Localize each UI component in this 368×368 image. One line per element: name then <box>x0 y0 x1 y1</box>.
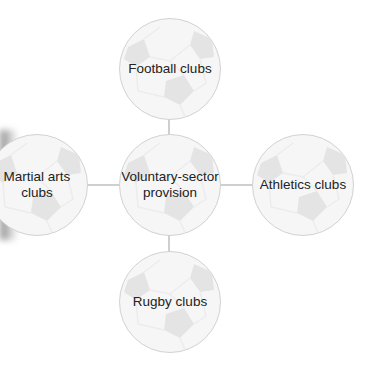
node-voluntary-sector-provision: Voluntary-sectorprovision <box>119 134 221 236</box>
connector-left <box>86 184 122 186</box>
node-football-clubs: Football clubs <box>119 18 221 120</box>
node-label: Martial artsclubs <box>0 135 87 235</box>
node-label: Voluntary-sectorprovision <box>120 135 220 235</box>
node-label: Football clubs <box>120 19 220 119</box>
node-label: Athletics clubs <box>253 135 353 235</box>
connector-right <box>219 184 255 186</box>
node-label: Rugby clubs <box>120 252 220 352</box>
node-rugby-clubs: Rugby clubs <box>119 251 221 353</box>
node-athletics-clubs: Athletics clubs <box>252 134 354 236</box>
connector-bottom <box>168 234 170 252</box>
node-martial-arts-clubs: Martial artsclubs <box>0 134 88 236</box>
